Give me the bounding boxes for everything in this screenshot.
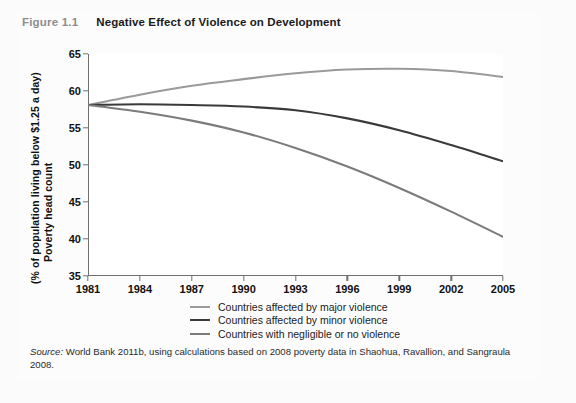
- x-tick-label: 1981: [76, 283, 100, 295]
- legend-label: Countries with negligible or no violence: [218, 328, 400, 340]
- x-tick-mark: [191, 276, 192, 281]
- y-tick-mark: [83, 53, 88, 54]
- x-tick-label: 1990: [231, 283, 255, 295]
- y-tick-label: 45: [69, 196, 81, 208]
- y-tick-label: 65: [69, 48, 81, 60]
- chart-line-countries-affected-by-major-violence: [88, 69, 503, 105]
- legend-swatch-icon: [190, 319, 210, 321]
- page-title: Negative Effect of Violence on Developme…: [96, 16, 340, 28]
- x-tick-label: 2002: [439, 283, 463, 295]
- y-tick-label: 55: [69, 122, 81, 134]
- y-tick-label: 50: [69, 159, 81, 171]
- y-tick-mark: [83, 238, 88, 239]
- figure-number: Figure 1.1: [22, 16, 78, 28]
- x-tick-mark: [399, 276, 400, 281]
- y-axis-title-line2: (% of population living below $1.25 a da…: [29, 72, 41, 284]
- x-tick-label: 1996: [335, 283, 359, 295]
- figure-title-row: Figure 1.1 Negative Effect of Violence o…: [22, 16, 341, 28]
- plot-box: 35404550556065 1981198419871990199319961…: [88, 54, 503, 276]
- chart-legend: Countries affected by major violenceCoun…: [0, 300, 576, 341]
- legend-swatch-icon: [190, 333, 210, 335]
- x-tick-label: 1993: [283, 283, 307, 295]
- legend-item[interactable]: Countries affected by major violence: [190, 300, 388, 314]
- x-tick-label: 2005: [491, 283, 515, 295]
- legend-label: Countries affected by major violence: [218, 301, 388, 313]
- y-tick-label: 40: [69, 233, 81, 245]
- chart-area: Poverty head count (% of population livi…: [28, 42, 508, 292]
- legend-item[interactable]: Countries with negligible or no violence: [190, 327, 400, 341]
- figure-panel: Figure 1.1 Negative Effect of Violence o…: [0, 0, 576, 403]
- y-tick-mark: [83, 164, 88, 165]
- source-text: World Bank 2011b, using calculations bas…: [30, 346, 510, 370]
- y-axis-title-line1: Poverty head count: [42, 163, 54, 262]
- y-axis-title: Poverty head count (% of population livi…: [26, 52, 60, 287]
- chart-line-countries-with-negligible-or-no-violence: [88, 105, 503, 237]
- x-tick-label: 1984: [128, 283, 152, 295]
- legend-label: Countries affected by minor violence: [218, 314, 388, 326]
- x-tick-label: 1987: [180, 283, 204, 295]
- y-tick-mark: [83, 201, 88, 202]
- x-tick-label: 1999: [387, 283, 411, 295]
- y-tick-mark: [83, 127, 88, 128]
- source-note: Source: World Bank 2011b, using calculat…: [30, 346, 530, 371]
- x-tick-mark: [243, 276, 244, 281]
- y-tick-label: 60: [69, 85, 81, 97]
- source-label: Source:: [30, 346, 63, 357]
- x-tick-mark: [450, 276, 451, 281]
- chart-lines: [88, 54, 503, 276]
- y-tick-mark: [83, 90, 88, 91]
- x-tick-mark: [347, 276, 348, 281]
- x-tick-mark: [295, 276, 296, 281]
- y-tick-label: 35: [69, 270, 81, 282]
- x-tick-mark: [502, 276, 503, 281]
- legend-item[interactable]: Countries affected by minor violence: [190, 314, 388, 328]
- legend-swatch-icon: [190, 306, 210, 308]
- x-tick-mark: [87, 276, 88, 281]
- x-tick-mark: [139, 276, 140, 281]
